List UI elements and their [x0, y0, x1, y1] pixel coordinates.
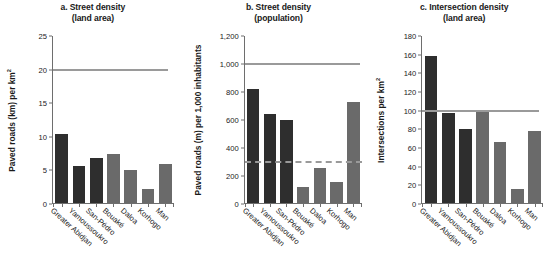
panel-c-x-labels: Greater AbidjanYamoussoukroSan-PédroBoua…	[421, 206, 543, 268]
bar-slot	[105, 36, 122, 203]
bar-slot	[157, 36, 174, 203]
panel-b-y-tick-mark	[241, 176, 244, 177]
panel-a-bars	[53, 36, 174, 203]
bar	[90, 158, 103, 203]
panel-a-y-tick-mark	[49, 170, 52, 171]
panel-a-y-axis-title: Paved roads (km) per km2	[4, 36, 18, 204]
panel-c-title: c. Intersection density (land area)	[371, 2, 557, 24]
panel-b-y-tick-mark	[241, 148, 244, 149]
bar-slot	[53, 36, 70, 203]
bar	[442, 113, 455, 203]
bar	[297, 187, 309, 203]
panel-b-y-tick-mark	[241, 36, 244, 37]
bar	[425, 56, 438, 203]
bar	[528, 131, 541, 203]
panel-c-bars	[422, 36, 543, 203]
panel-b-street-density-population: b. Street density (population) Paved roa…	[186, 0, 372, 269]
panel-b-y-axis-title: Paved roads (m) per 1,000 inhabitants	[192, 36, 206, 204]
panel-a-plot-area: 0510152025	[52, 36, 174, 204]
bar-slot	[457, 36, 474, 203]
bar	[159, 164, 172, 203]
bar-slot	[88, 36, 105, 203]
bar-slot	[422, 36, 439, 203]
panel-c-intersection-density-land-area: c. Intersection density (land area) Inte…	[371, 0, 557, 269]
panel-b-x-labels: Greater AbidjanYamoussoukroSan-PédroBoua…	[244, 206, 362, 268]
panel-b-y-tick-mark	[241, 92, 244, 93]
bar	[124, 170, 137, 203]
panel-a-y-axis-label-sup: 2	[6, 69, 12, 72]
panel-c-y-axis-label-sup: 2	[375, 77, 381, 80]
bar-slot	[139, 36, 156, 203]
bar-slot	[312, 36, 329, 203]
bar-slot	[328, 36, 345, 203]
bar	[476, 112, 489, 203]
panel-b-y-tick-mark	[241, 204, 244, 205]
bar-slot	[295, 36, 312, 203]
panel-c-y-tick-mark	[418, 166, 421, 167]
panel-c-y-tick-mark	[418, 185, 421, 186]
bar-slot	[122, 36, 139, 203]
bar-slot	[491, 36, 508, 203]
bar-slot	[245, 36, 262, 203]
panel-b-y-tick-mark	[241, 120, 244, 121]
panel-c-title-sub: (land area)	[371, 13, 557, 24]
panel-c-y-axis-label-text: Intersections per km	[376, 81, 386, 163]
bar	[347, 102, 359, 203]
panel-a-title-main: a. Street density	[60, 2, 125, 12]
panel-c-y-tick-mark	[418, 110, 421, 111]
panel-a-y-axis-label-text: Paved roads (km) per km	[6, 72, 16, 172]
panel-a-y-tick-mark	[49, 103, 52, 104]
bar-slot	[278, 36, 295, 203]
bar	[511, 189, 524, 203]
panel-b-plot-area: 02004006008001,0001,200	[244, 36, 362, 204]
panel-a-street-density-land-area: a. Street density (land area) Paved road…	[0, 0, 186, 269]
bar-slot	[526, 36, 543, 203]
bar-slot	[261, 36, 278, 203]
bar	[73, 166, 86, 203]
reference-line-1000	[245, 63, 360, 65]
panel-c-plot-area: 020406080100120140160180	[421, 36, 543, 204]
bar	[494, 142, 507, 203]
bar	[314, 168, 326, 203]
panel-a-y-tick-mark	[49, 69, 52, 70]
reference-line-20	[53, 69, 168, 71]
panel-c-y-tick-mark	[418, 73, 421, 74]
bar	[142, 189, 155, 203]
panel-c-y-tick-mark	[418, 129, 421, 130]
panel-c-y-axis-title: Intersections per km2	[373, 36, 387, 204]
bar-slot	[440, 36, 457, 203]
reference-line-300	[245, 161, 362, 163]
bar	[459, 129, 472, 203]
panel-a-y-tick-mark	[49, 136, 52, 137]
panel-a-title-sub: (land area)	[0, 13, 186, 24]
panel-b-y-tick-mark	[241, 64, 244, 65]
panel-a-title: a. Street density (land area)	[0, 2, 186, 24]
panel-a-y-tick-mark	[49, 36, 52, 37]
panel-b-y-axis-label-text: Paved roads (m) per 1,000 inhabitants	[194, 45, 204, 196]
bar	[264, 114, 276, 203]
panel-b-title-sub: (population)	[186, 13, 372, 24]
bar	[330, 182, 342, 203]
panel-b-title-main: b. Street density	[246, 2, 311, 12]
bar	[55, 134, 68, 203]
bar	[107, 154, 120, 203]
bar-slot	[345, 36, 362, 203]
panel-a-y-tick-mark	[49, 204, 52, 205]
panel-b-title: b. Street density (population)	[186, 2, 372, 24]
reference-line-100	[422, 110, 539, 112]
panel-c-title-main: c. Intersection density	[420, 2, 508, 12]
panel-c-y-tick-mark	[418, 204, 421, 205]
bar-slot	[474, 36, 491, 203]
figure-three-panel-bar-charts: a. Street density (land area) Paved road…	[0, 0, 557, 269]
bar-slot	[509, 36, 526, 203]
panel-c-y-tick-mark	[418, 54, 421, 55]
panel-c-y-tick-mark	[418, 36, 421, 37]
panel-b-bars	[245, 36, 362, 203]
panel-c-y-tick-mark	[418, 92, 421, 93]
panel-c-y-tick-mark	[418, 148, 421, 149]
panel-a-x-labels: Greater AbidjanYamoussoukroSan-PédroBoua…	[52, 206, 174, 268]
bar-slot	[70, 36, 87, 203]
bar	[247, 89, 259, 203]
